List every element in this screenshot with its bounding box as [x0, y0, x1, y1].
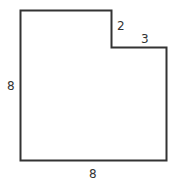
label-notch-vertical: 2 [117, 20, 125, 32]
label-bottom-side: 8 [89, 168, 97, 180]
label-notch-horizontal: 3 [141, 33, 149, 45]
label-left-side: 8 [7, 80, 15, 92]
l-shape-diagram [0, 0, 173, 185]
